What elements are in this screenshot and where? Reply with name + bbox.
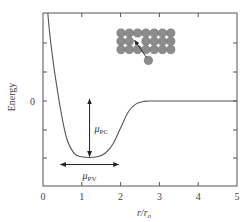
mu-pc-label: μPC: [94, 123, 109, 136]
mu-pv-label: μPV: [82, 170, 97, 183]
x-tick-label: 2: [118, 191, 123, 202]
x-tick-label: 4: [196, 191, 201, 202]
x-tick-label: 3: [157, 191, 162, 202]
energy-curve: [43, 0, 237, 158]
x-tick-label: 0: [41, 191, 46, 202]
x-tick-label: 1: [79, 191, 84, 202]
energy-chart: 0123450Energyr/roμPCμPV: [0, 0, 250, 222]
plot-frame: [43, 13, 237, 186]
x-tick-label: 5: [235, 191, 240, 202]
displaced-particle: [144, 56, 152, 64]
x-axis-title: r/ro: [137, 207, 152, 220]
y-tick-label-zero: 0: [30, 96, 35, 107]
particle-lattice-inset: [117, 29, 175, 65]
y-axis-title: Energy: [6, 83, 17, 112]
